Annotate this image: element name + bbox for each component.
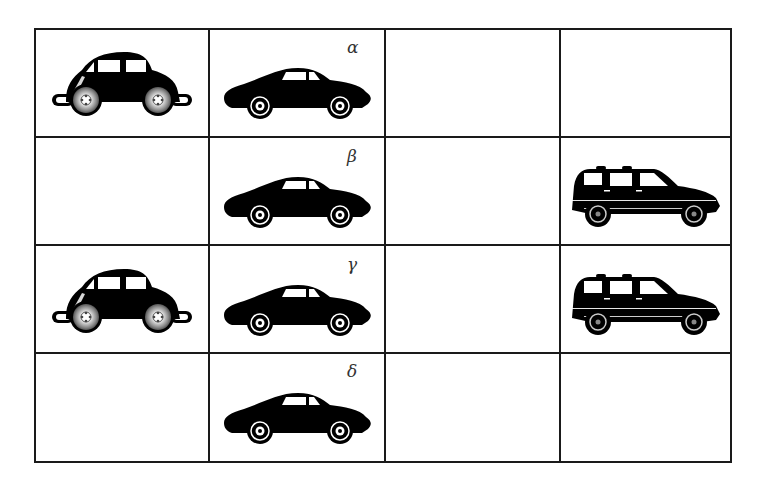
suv-icon bbox=[570, 274, 722, 336]
sports-coupe-icon bbox=[222, 66, 372, 120]
grid-line-v3 bbox=[559, 28, 561, 463]
grid-line-h4 bbox=[34, 461, 732, 463]
sports-coupe-icon bbox=[222, 391, 372, 445]
cell-label-beta: β bbox=[347, 148, 357, 165]
cell-label-delta: δ bbox=[347, 363, 357, 380]
grid-line-h1 bbox=[34, 136, 732, 138]
grid-line-h3 bbox=[34, 352, 732, 354]
grid-line-v0 bbox=[34, 28, 36, 463]
beetle-car-icon bbox=[52, 267, 192, 335]
suv-icon bbox=[570, 166, 722, 228]
grid-line-h2 bbox=[34, 244, 732, 246]
cell-label-gamma: γ bbox=[347, 256, 357, 273]
sports-coupe-icon bbox=[222, 175, 372, 229]
beetle-car-icon bbox=[52, 50, 192, 118]
grid-line-v4 bbox=[730, 28, 732, 463]
grid-line-v2 bbox=[384, 28, 386, 463]
cell-label-alpha: α bbox=[347, 39, 358, 56]
grid-line-h0 bbox=[34, 28, 732, 30]
grid-line-v1 bbox=[208, 28, 210, 463]
sports-coupe-icon bbox=[222, 283, 372, 337]
